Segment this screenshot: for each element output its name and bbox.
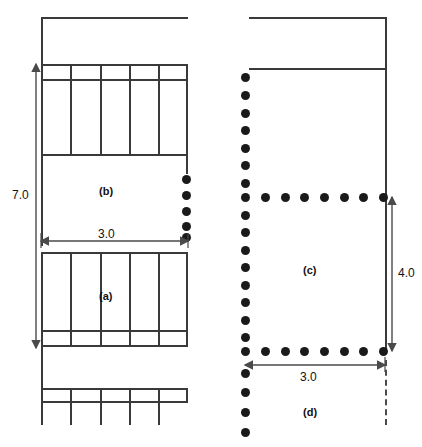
bottom-mesh-vline-5 — [158, 388, 160, 425]
region-c-bottom-row-dot — [379, 347, 388, 356]
bottom-mesh-vline-3 — [100, 388, 102, 425]
region-c-bottom-row-dot — [340, 347, 349, 356]
right-left-column-dot — [241, 408, 250, 417]
region-c-top-row-dot — [359, 193, 368, 202]
bottom-mesh-vline-2 — [70, 388, 72, 425]
right-left-column-dot — [241, 109, 250, 118]
region-c-bottom-row-dot — [300, 347, 309, 356]
right-left-column-dot — [241, 347, 250, 356]
region-c-bottom-row-dot — [261, 347, 270, 356]
right-left-column-dot — [241, 144, 250, 153]
lower-mesh-vline-1 — [41, 252, 43, 347]
right-left-column-dot — [241, 179, 250, 188]
right-left-column-dot — [241, 228, 250, 237]
dimension-label-4-0: 4.0 — [398, 266, 415, 280]
region-c-label: (c) — [303, 264, 316, 276]
left-lower-vertical-line — [41, 347, 43, 389]
bottom-mesh-vline-6 — [186, 388, 188, 402]
right-left-column-dot — [241, 193, 250, 202]
dimension-label-3-0-right: 3.0 — [300, 370, 317, 384]
dimension-label-7-0: 7.0 — [12, 188, 29, 202]
region-d-label: (d) — [303, 406, 317, 418]
lower-mesh-vline-6 — [186, 252, 188, 347]
region-b-edge-dot — [182, 233, 191, 242]
region-c-top-row-dot — [379, 193, 388, 202]
region-c-bottom-row-dot — [359, 347, 368, 356]
region-a-label: (a) — [99, 290, 112, 302]
right-left-column-dot — [241, 369, 250, 378]
lower-mesh-top-line — [41, 252, 188, 254]
right-left-column-dot — [241, 428, 250, 437]
region-b-edge-dot — [182, 191, 191, 200]
right-left-column-dot — [241, 73, 250, 82]
lower-mesh-bottom-line — [41, 345, 188, 347]
right-left-column-dot — [241, 298, 250, 307]
lower-mesh-vline-4 — [129, 252, 131, 347]
region-c-top-row-dot — [320, 193, 329, 202]
right-left-column-dot — [241, 281, 250, 290]
dimension-label-3-0-left: 3.0 — [98, 227, 115, 241]
upper-mesh-vline-1 — [41, 64, 43, 156]
left-top-boundary-line — [41, 17, 188, 19]
right-top-boundary-line — [249, 17, 387, 19]
right-inner-horizontal-line — [249, 68, 387, 70]
engineering-diagram: (b) (a) — [0, 0, 422, 447]
right-left-column-dot — [241, 161, 250, 170]
bottom-mesh-vline-4 — [129, 388, 131, 425]
lower-mesh-vline-2 — [70, 252, 72, 347]
bottom-mesh-top-line — [41, 388, 188, 390]
right-left-column-dot — [241, 126, 250, 135]
upper-mesh-vline-6 — [186, 64, 188, 156]
bottom-mesh-vline-1 — [41, 388, 43, 425]
upper-mesh-top-line — [41, 64, 188, 66]
region-b-left-edge — [41, 156, 43, 246]
region-b-label: (b) — [99, 185, 113, 197]
right-left-column-dot — [241, 316, 250, 325]
right-left-column-dot — [241, 388, 250, 397]
region-c-bottom-row-dot — [281, 347, 290, 356]
right-left-column-dot — [241, 211, 250, 220]
region-c-top-row-dot — [261, 193, 270, 202]
region-c-bottom-row-dot — [320, 347, 329, 356]
upper-mesh-vline-4 — [129, 64, 131, 156]
upper-mesh-band-line — [41, 79, 188, 81]
region-c-top-row-dot — [300, 193, 309, 202]
right-left-column-dot — [241, 91, 250, 100]
right-left-column-dot — [241, 333, 250, 342]
region-b-right-edge — [186, 156, 188, 174]
lower-mesh-vline-5 — [158, 252, 160, 347]
region-b-edge-dot — [182, 222, 191, 231]
left-outer-vertical-line — [41, 17, 43, 64]
region-c-top-row-dot — [281, 193, 290, 202]
right-left-column-dot — [241, 263, 250, 272]
upper-mesh-vline-2 — [70, 64, 72, 156]
upper-mesh-vline-5 — [158, 64, 160, 156]
region-d-right-dashed-line — [385, 360, 387, 425]
right-left-column-dot — [241, 246, 250, 255]
bottom-mesh-band-line — [41, 401, 188, 403]
region-b-edge-dot — [182, 175, 191, 184]
upper-mesh-vline-3 — [100, 64, 102, 156]
upper-mesh-bottom-line — [41, 154, 188, 156]
region-c-top-row-dot — [340, 193, 349, 202]
region-b-edge-dot — [182, 207, 191, 216]
lower-mesh-band-line — [41, 330, 188, 332]
